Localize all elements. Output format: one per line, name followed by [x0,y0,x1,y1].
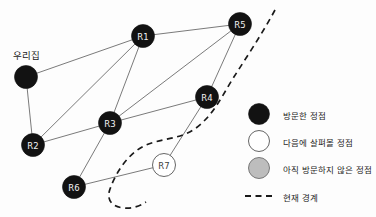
node-label-R7: R7 [158,161,169,171]
legend-label-visited: 방문한 정점 [283,109,326,121]
node-label-R1: R1 [137,32,148,42]
graph-edge [110,97,207,123]
legend-label-boundary: 현재 경계 [283,191,318,203]
graph-edge [110,24,240,123]
graph-node-R7[interactable]: R7 [153,154,176,177]
graph-edge [143,24,240,36]
node-label-R6: R6 [68,183,79,193]
graph-node-R2[interactable]: R2 [22,134,45,157]
node-label-R3: R3 [104,119,115,129]
legend-label-frontier: 다음에 살펴볼 정점 [283,136,353,148]
node-label-R5: R5 [234,20,245,30]
graph-node-R4[interactable]: R4 [196,86,219,109]
graph-edge [26,36,143,77]
graph-node-home[interactable] [15,66,38,89]
node-label-R4: R4 [201,93,212,103]
legend-label-unvisited: 아직 방문하지 않은 정점 [283,163,372,175]
home-node-label: 우리집 [13,50,40,61]
graph-edge [74,165,164,187]
graph-node-R1[interactable]: R1 [132,25,155,48]
graph-node-R5[interactable]: R5 [229,13,252,36]
graph-node-R6[interactable]: R6 [63,176,86,199]
node-circle-home[interactable] [15,66,38,89]
graph-node-R3[interactable]: R3 [99,112,122,135]
graph-edge [207,24,240,97]
graph-edge [33,36,143,145]
diagram-canvas: R1R2R3R4R5R6R7 우리집 방문한 정점다음에 살펴볼 정점아직 방문… [0,0,376,217]
node-label-R2: R2 [27,141,38,151]
home-label-layer: 우리집 [13,50,40,61]
